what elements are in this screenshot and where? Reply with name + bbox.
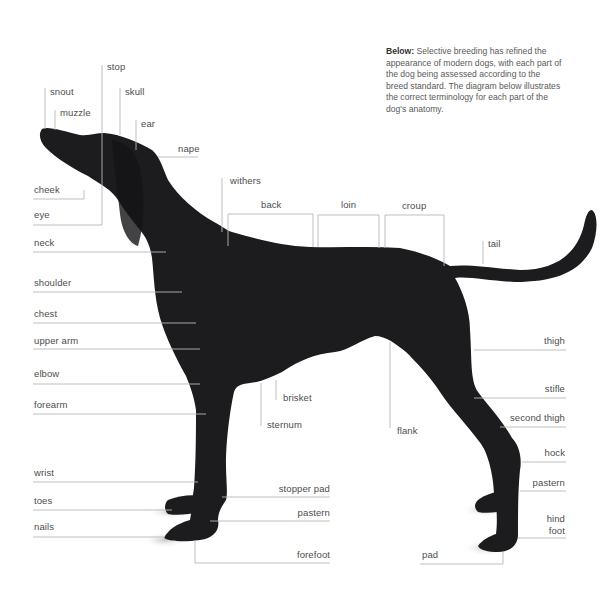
label-muzzle: muzzle xyxy=(60,107,91,118)
label-loin: loin xyxy=(341,199,356,210)
label-sternum: sternum xyxy=(267,419,302,430)
label-back: back xyxy=(261,199,281,210)
label-skull: skull xyxy=(125,86,145,97)
caption-body: Selective breeding has refined the appea… xyxy=(386,46,561,114)
caption: Below: Selective breeding has refined th… xyxy=(386,46,564,116)
label-forefoot: forefoot xyxy=(297,549,330,560)
label-neck: neck xyxy=(34,237,54,248)
label-pad: pad xyxy=(422,549,438,560)
label-hock: hock xyxy=(545,447,565,458)
label-nape: nape xyxy=(178,143,200,154)
label-elbow: elbow xyxy=(34,368,59,379)
label-wrist: wrist xyxy=(34,467,54,478)
dog-anatomy-diagram: Below: Selective breeding has refined th… xyxy=(0,0,608,596)
label-toes: toes xyxy=(34,495,52,506)
label-upper-arm: upper arm xyxy=(34,335,78,346)
label-hind-foot-line2: foot xyxy=(549,525,565,536)
label-withers: withers xyxy=(230,175,261,186)
label-forearm: forearm xyxy=(34,399,67,410)
label-eye: eye xyxy=(34,209,50,220)
label-rear-pastern: pastern xyxy=(533,477,565,488)
label-croup: croup xyxy=(402,200,426,211)
caption-lead: Below: xyxy=(386,46,414,56)
label-shoulder: shoulder xyxy=(34,277,71,288)
label-cheek: cheek xyxy=(34,184,60,195)
label-hind-foot-line1: hind xyxy=(547,513,565,524)
label-second-thigh: second thigh xyxy=(510,412,565,423)
label-thigh: thigh xyxy=(544,335,565,346)
label-snout: snout xyxy=(50,86,74,97)
label-ear: ear xyxy=(141,118,155,129)
label-front-pastern: pastern xyxy=(298,507,330,518)
label-stifle: stifle xyxy=(545,383,565,394)
label-tail: tail xyxy=(488,238,501,249)
front-paw-rear xyxy=(165,495,200,515)
label-brisket: brisket xyxy=(283,392,312,403)
label-chest: chest xyxy=(34,308,57,319)
label-stopper-pad: stopper pad xyxy=(279,483,330,494)
label-nails: nails xyxy=(34,521,54,532)
label-flank: flank xyxy=(397,425,418,436)
label-stop: stop xyxy=(107,61,125,72)
